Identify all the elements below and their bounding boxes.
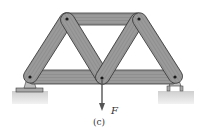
pin-top-left xyxy=(65,17,68,20)
force-arrow xyxy=(99,80,105,111)
figure-caption: (c) xyxy=(93,117,105,127)
left-ground xyxy=(12,91,48,104)
pin-top-right xyxy=(137,17,140,20)
pin-bottom-right xyxy=(173,75,176,78)
right-ground xyxy=(158,91,194,104)
force-label: F xyxy=(111,105,118,116)
pin-bottom-middle xyxy=(100,76,103,79)
pin-bottom-left xyxy=(28,75,31,78)
